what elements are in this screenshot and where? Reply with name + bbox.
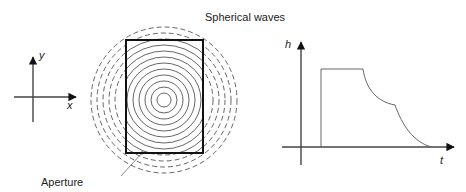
- aperture-leader-dot: [141, 152, 144, 155]
- h-axis-label: h: [285, 38, 291, 50]
- spherical-waves-label: Spherical waves: [205, 11, 285, 23]
- response-axes: [282, 42, 454, 165]
- diagram-canvas: [0, 0, 466, 192]
- t-axis-label: t: [440, 154, 443, 166]
- impulse-response-curve: [321, 69, 432, 147]
- left-y-axis-label: y: [39, 49, 45, 61]
- left-axes: [14, 57, 76, 122]
- left-x-axis-label: x: [67, 99, 73, 111]
- aperture-leader-line: [121, 153, 142, 176]
- aperture-label: Aperture: [41, 176, 83, 188]
